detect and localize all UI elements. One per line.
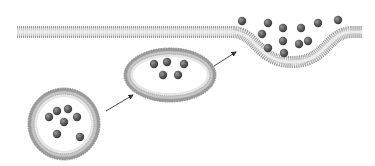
cargo-particle [53, 107, 61, 115]
released-particle [304, 37, 312, 45]
released-particle [314, 19, 322, 27]
cargo-particle [76, 133, 84, 141]
cargo-particle [53, 130, 61, 138]
cargo-particle [150, 60, 158, 68]
released-particle [258, 30, 266, 38]
cargo-particle [73, 113, 81, 121]
cargo-particle [174, 71, 182, 79]
cargo-particle [45, 113, 53, 121]
cargo-particle [180, 60, 188, 68]
released-particle [279, 37, 287, 45]
arrow-2 [214, 52, 236, 66]
released-particle [295, 40, 303, 48]
vesicle-1 [28, 88, 100, 160]
released-particle [264, 19, 272, 27]
arrow-1 [106, 95, 133, 111]
cargo-particle [163, 58, 171, 66]
cargo-particle [159, 71, 167, 79]
released-particle [238, 17, 246, 25]
released-particle [279, 24, 287, 32]
released-particle [264, 44, 272, 52]
cargo-particle [60, 118, 68, 126]
exocytosis-diagram [0, 0, 375, 166]
vesicles [28, 48, 216, 160]
released-particle [334, 16, 342, 24]
cargo-particle [64, 105, 72, 113]
vesicle-2 [124, 48, 216, 102]
released-particle [297, 24, 305, 32]
released-particle [280, 49, 288, 57]
